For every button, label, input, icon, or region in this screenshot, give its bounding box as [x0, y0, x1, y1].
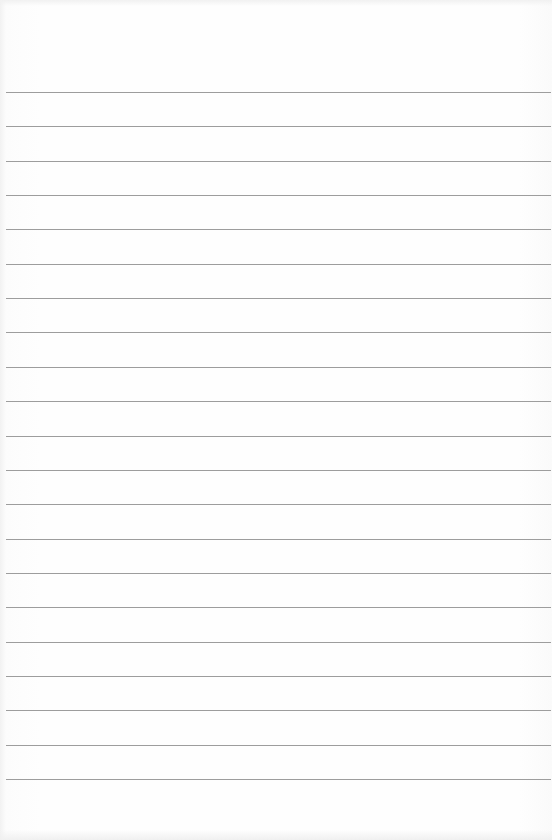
paper-bottom-edge	[0, 830, 552, 840]
ruled-line	[6, 779, 551, 780]
ruled-line	[6, 229, 551, 230]
ruled-line	[6, 504, 551, 505]
ruled-line	[6, 710, 551, 711]
ruled-line	[6, 539, 551, 540]
ruled-line	[6, 573, 551, 574]
paper-top-edge	[0, 0, 552, 6]
ruled-line	[6, 676, 551, 677]
ruled-line	[6, 298, 551, 299]
ruled-line	[6, 436, 551, 437]
ruled-line	[6, 642, 551, 643]
ruled-line	[6, 332, 551, 333]
ruled-line	[6, 607, 551, 608]
ruled-line	[6, 195, 551, 196]
ruled-line	[6, 745, 551, 746]
ruled-line	[6, 401, 551, 402]
ruled-line	[6, 264, 551, 265]
ruled-line	[6, 92, 551, 93]
ruled-line	[6, 161, 551, 162]
lined-paper-sheet	[0, 0, 552, 840]
ruled-line	[6, 367, 551, 368]
ruled-line	[6, 470, 551, 471]
ruled-line	[6, 126, 551, 127]
